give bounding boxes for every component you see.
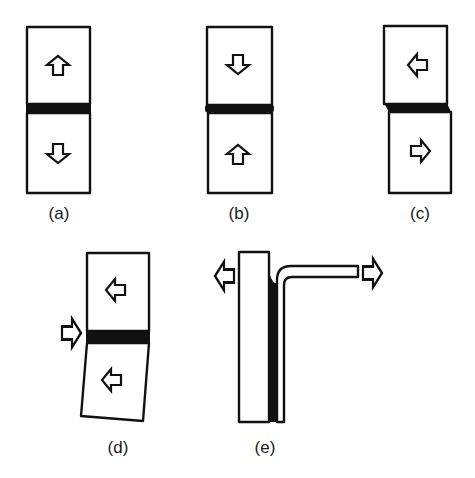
panel-d: (d) — [62, 253, 150, 457]
panel-b: (b) — [205, 27, 274, 223]
panel-label-a: (a) — [49, 204, 70, 223]
panel-e: (e) — [215, 252, 382, 457]
panel-label-b: (b) — [229, 204, 250, 223]
panel-label-c: (c) — [410, 204, 430, 223]
flexible-adherend — [277, 266, 358, 422]
panel-a: (a) — [26, 27, 91, 223]
adhesive-layer — [86, 330, 150, 343]
right-arrow-icon — [363, 259, 382, 288]
panel-label-e: (e) — [255, 438, 276, 457]
adhesive-loading-diagram: (a) (b) (c) (d) (e) — [0, 0, 475, 478]
left-arrow-icon — [215, 262, 234, 291]
adhesive-layer — [384, 103, 451, 112]
adhesive-layer — [26, 103, 91, 113]
panel-label-d: (d) — [108, 438, 129, 457]
panel-c: (c) — [384, 26, 451, 223]
right-arrow-icon — [62, 319, 81, 348]
rigid-adherend — [239, 252, 269, 422]
adhesive-layer — [205, 104, 274, 113]
